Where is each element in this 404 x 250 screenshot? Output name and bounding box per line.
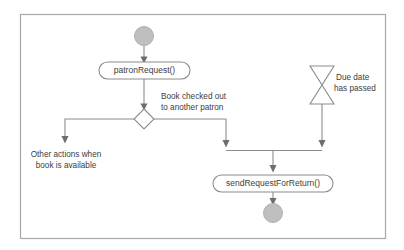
action-node-send-request[interactable]: sendRequestForReturn() xyxy=(213,175,333,192)
note-line-1: Due date xyxy=(336,73,370,82)
action-label: sendRequestForReturn() xyxy=(226,178,320,188)
note-line-2: has passed xyxy=(334,84,376,93)
diagram-frame xyxy=(21,15,386,239)
initial-node[interactable] xyxy=(135,27,154,46)
note-line-2: book is available xyxy=(36,161,97,170)
guard-label-line-1: Book checked out xyxy=(161,92,227,101)
action-label: patronRequest() xyxy=(114,65,176,75)
final-node[interactable] xyxy=(264,204,283,223)
diagram-canvas: patronRequest() sendRequestForReturn() B… xyxy=(0,0,404,250)
note-line-1: Other actions when xyxy=(31,150,102,159)
action-node-patron-request[interactable]: patronRequest() xyxy=(99,62,190,79)
uml-activity-diagram: patronRequest() sendRequestForReturn() B… xyxy=(0,0,404,250)
guard-label-line-2: to another patron xyxy=(161,103,224,112)
